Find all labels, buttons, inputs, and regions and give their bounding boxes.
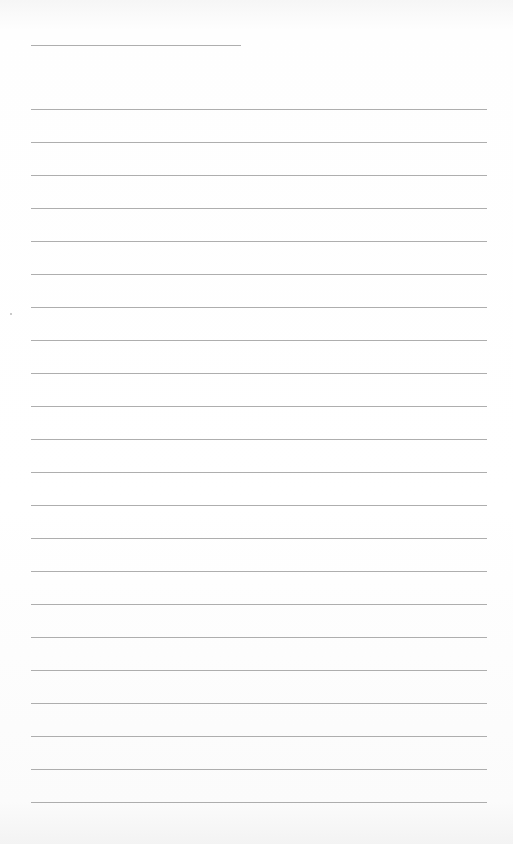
ruled-line [31,307,487,308]
ruled-line [31,373,487,374]
ruled-line [31,604,487,605]
ruled-line [31,736,487,737]
ruled-line [31,406,487,407]
ruled-line [31,175,487,176]
ruled-line [31,670,487,671]
ruled-line [31,637,487,638]
ruled-line [31,208,487,209]
ruled-line [31,769,487,770]
lined-paper-page [0,0,513,844]
ruled-line [31,472,487,473]
ruled-line [31,802,487,803]
ruled-line [31,274,487,275]
ruled-line [31,340,487,341]
ruled-line [31,109,487,110]
ruled-line [31,439,487,440]
ruled-line [31,142,487,143]
ruled-line [31,571,487,572]
ruled-line [31,505,487,506]
paper-speck [10,313,12,315]
ruled-line [31,241,487,242]
ruled-line [31,538,487,539]
ruled-line [31,703,487,704]
header-line [31,45,241,46]
